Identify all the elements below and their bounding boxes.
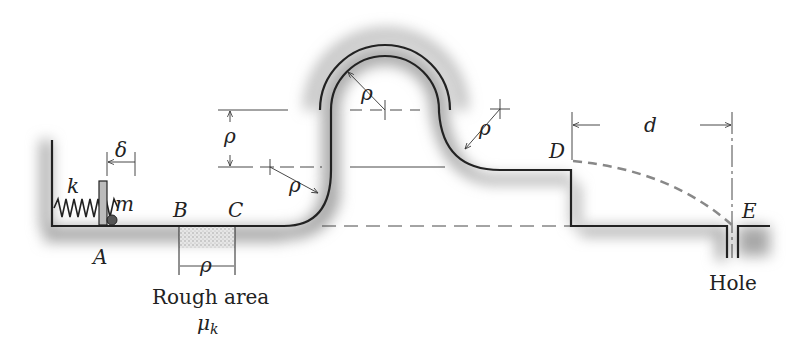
rho-label-lower: ρ (288, 173, 301, 197)
trajectory (573, 161, 732, 225)
d-label: d (644, 113, 657, 137)
point-d-label: D (548, 139, 565, 163)
ball (107, 215, 117, 225)
delta-label: δ (115, 138, 127, 162)
rho-label-upper: ρ (478, 116, 491, 140)
rough-area-label: Rough area (152, 285, 269, 309)
rho-label-rough: ρ (199, 253, 212, 277)
mass-block (99, 181, 107, 225)
spring (54, 199, 118, 217)
friction-label: μk (197, 311, 218, 337)
rho-label-vertical: ρ (223, 124, 236, 148)
point-b-label: B (172, 198, 188, 222)
point-c-label: C (228, 198, 243, 222)
track-diagram: k m δ A B C D E ρ ρ ρ ρ ρ d Rough area μ… (0, 0, 803, 339)
mass-label: m (115, 192, 134, 216)
hole-label: Hole (709, 271, 757, 295)
rough-area-patch (179, 226, 235, 248)
rho-label-loop: ρ (360, 81, 373, 105)
spring-label: k (67, 174, 79, 198)
point-e-label: E (741, 199, 757, 223)
point-a-label: A (91, 245, 107, 269)
